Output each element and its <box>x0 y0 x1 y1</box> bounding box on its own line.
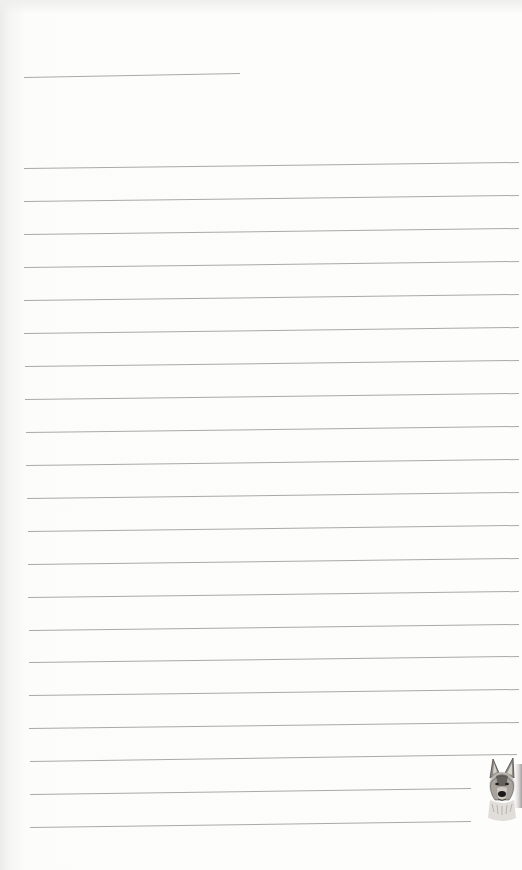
ruled-line <box>29 656 519 663</box>
ruled-line <box>28 525 519 532</box>
ruled-line <box>24 195 519 202</box>
ruled-line <box>24 294 519 301</box>
ruled-line <box>24 228 519 235</box>
ruled-line <box>28 591 519 598</box>
ruled-line <box>24 162 519 169</box>
header-line <box>24 73 240 78</box>
ruled-line <box>29 689 519 696</box>
ruled-line <box>25 360 519 367</box>
ruled-line <box>25 393 519 400</box>
ruled-line <box>30 821 471 828</box>
ruled-line <box>30 754 517 762</box>
ruled-line <box>30 788 471 795</box>
notepaper-background <box>0 0 522 870</box>
ruled-line <box>26 459 519 466</box>
ruled-line <box>29 722 519 729</box>
ruled-line <box>24 261 519 268</box>
ruled-line <box>26 426 519 433</box>
ruled-line <box>27 492 519 499</box>
ruled-line <box>29 624 519 631</box>
ruled-line <box>28 558 519 565</box>
ruled-line <box>24 327 519 334</box>
german-shepherd-illustration <box>482 756 522 824</box>
